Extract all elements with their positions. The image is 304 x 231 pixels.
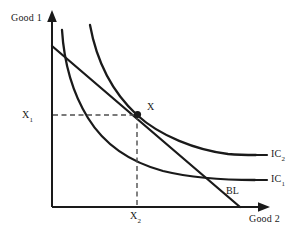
indifference-curve-ic2	[90, 25, 256, 155]
curve-label-ic2: IC2	[271, 149, 285, 162]
y-axis-tick-label-x1: X1	[22, 110, 33, 123]
x-axis-arrowhead	[258, 202, 270, 212]
budget-line-bl	[52, 46, 240, 207]
y-axis-arrowhead	[47, 10, 57, 22]
x-axis-tick-label-x2: X2	[130, 211, 141, 224]
curve-label-ic1: IC1	[271, 174, 285, 187]
ic1-label-main: IC	[271, 173, 281, 184]
y-tick-subscript: 1	[29, 116, 33, 124]
x-axis-label: Good 2	[249, 214, 280, 224]
indifference-curve-diagram: Good 1 Good 2 X1 X2 X IC2 IC1 BL	[0, 0, 304, 231]
curve-label-bl: BL	[226, 186, 239, 196]
chart-canvas	[0, 0, 304, 231]
indifference-curve-ic1-group	[62, 30, 255, 180]
optimum-point-marker	[134, 111, 141, 118]
curve-label-leaders	[255, 155, 267, 180]
budget-line-group	[52, 46, 240, 207]
optimum-point-label: X	[147, 102, 154, 112]
x-tick-subscript: 2	[137, 217, 141, 225]
axes-group	[47, 10, 270, 212]
ic2-label-main: IC	[271, 148, 281, 159]
ic1-label-subscript: 1	[281, 180, 285, 188]
indifference-curve-ic2-group	[90, 25, 256, 155]
optimum-point-group	[134, 111, 141, 118]
indifference-curve-ic1	[62, 30, 255, 180]
ic2-label-subscript: 2	[281, 155, 285, 163]
y-axis-label: Good 1	[11, 13, 42, 23]
